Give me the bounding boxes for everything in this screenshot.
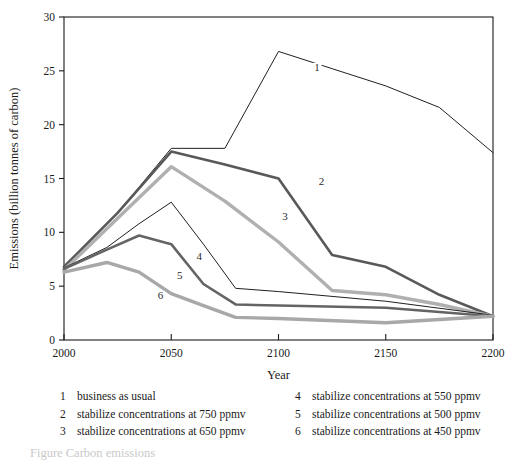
y-tick-label: 10 (44, 226, 56, 238)
y-tick-label: 15 (44, 173, 56, 185)
legend-item: 1 business as usual (60, 388, 295, 406)
legend-label: business as usual (77, 388, 156, 406)
legend-key: 6 (295, 423, 312, 441)
legend-key: 5 (295, 406, 312, 424)
legend-item: 6 stabilize concentrations at 450 ppmv (295, 423, 520, 441)
chart-plot-area: 05101520253020002050210021502200YearEmis… (0, 0, 520, 385)
y-tick-label: 20 (44, 119, 56, 131)
y-tick-label: 5 (49, 280, 55, 292)
caption-fragment: Figure Carbon emissions (30, 446, 500, 463)
legend-key: 3 (60, 423, 77, 441)
figure-container: 05101520253020002050210021502200YearEmis… (0, 0, 520, 463)
legend-column-left: 1 business as usual 2 stabilize concentr… (60, 388, 295, 444)
series-label-1: 1 (314, 61, 320, 73)
legend-item: 4 stabilize concentrations at 550 ppmv (295, 388, 520, 406)
series-label-4: 4 (196, 250, 202, 262)
y-tick-label: 25 (44, 65, 56, 77)
y-tick-label: 30 (44, 11, 56, 23)
legend-label: stabilize concentrations at 650 ppmv (77, 423, 246, 441)
x-tick-label: 2100 (267, 347, 290, 359)
series-line-1 (64, 51, 493, 266)
x-tick-label: 2000 (53, 347, 76, 359)
series-label-3: 3 (282, 210, 288, 222)
series-line-6 (64, 262, 493, 322)
x-tick-label: 2200 (482, 347, 505, 359)
legend-label: stabilize concentrations at 550 ppmv (312, 388, 481, 406)
legend-key: 2 (60, 406, 77, 424)
legend-label: stabilize concentrations at 500 ppmv (312, 406, 481, 424)
legend-label: stabilize concentrations at 750 ppmv (77, 406, 246, 424)
legend-item: 5 stabilize concentrations at 500 ppmv (295, 406, 520, 424)
legend-column-right: 4 stabilize concentrations at 550 ppmv 5… (295, 388, 520, 444)
legend-key: 4 (295, 388, 312, 406)
legend-item: 3 stabilize concentrations at 650 ppmv (60, 423, 295, 441)
legend-label: stabilize concentrations at 450 ppmv (312, 423, 481, 441)
x-tick-label: 2150 (374, 347, 397, 359)
chart-legend: 1 business as usual 2 stabilize concentr… (0, 388, 520, 444)
y-tick-label: 0 (49, 334, 55, 346)
series-label-2: 2 (319, 175, 325, 187)
series-label-5: 5 (177, 269, 183, 281)
x-axis-title: Year (267, 368, 291, 382)
legend-key: 1 (60, 388, 77, 406)
x-tick-label: 2050 (160, 347, 183, 359)
series-line-4 (64, 202, 493, 315)
y-axis-title: Emissions (billion tonnes of carbon) (7, 88, 21, 270)
series-label-6: 6 (158, 289, 164, 301)
emissions-line-chart: 05101520253020002050210021502200YearEmis… (0, 0, 520, 385)
legend-item: 2 stabilize concentrations at 750 ppmv (60, 406, 295, 424)
